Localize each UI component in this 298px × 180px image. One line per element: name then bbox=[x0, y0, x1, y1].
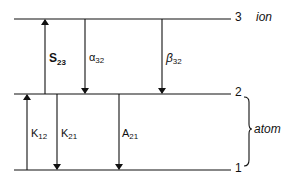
alpha32-label: α32 bbox=[89, 51, 105, 65]
beta32-label: β32 bbox=[165, 51, 182, 66]
k12-label: K12 bbox=[31, 127, 48, 141]
energy-level-diagram: 3 ion 2 1 atom S23 α32 β32 K12 K21 A21 bbox=[0, 0, 298, 180]
atom-group-label: atom bbox=[254, 122, 281, 136]
ion-group-label: ion bbox=[256, 10, 272, 24]
a21-label: A21 bbox=[122, 127, 139, 141]
level-2-label: 2 bbox=[235, 85, 242, 99]
atom-brace-icon bbox=[244, 97, 252, 166]
level-1-label: 1 bbox=[235, 161, 242, 175]
s23-label: S23 bbox=[49, 51, 66, 67]
k21-label: K21 bbox=[61, 127, 78, 141]
level-3-label: 3 bbox=[235, 10, 242, 24]
